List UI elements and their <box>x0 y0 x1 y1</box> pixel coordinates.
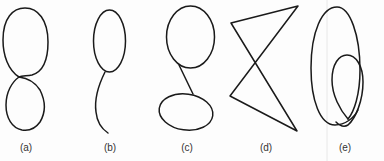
panel-c-label: (c) <box>181 142 193 153</box>
panel-d-label: (d) <box>260 142 272 153</box>
figure-drawings <box>0 0 384 161</box>
panel-b-label: (b) <box>104 142 116 153</box>
panel-e-drawing <box>311 7 363 126</box>
figure: (a) (b) (c) (d) (e) <box>0 0 384 161</box>
panel-b-drawing <box>94 10 126 133</box>
panel-d-drawing <box>230 6 298 131</box>
panel-a-drawing <box>3 8 48 130</box>
panel-a-label: (a) <box>20 142 32 153</box>
panel-c-drawing <box>157 6 215 134</box>
panel-e-label: (e) <box>339 142 351 153</box>
